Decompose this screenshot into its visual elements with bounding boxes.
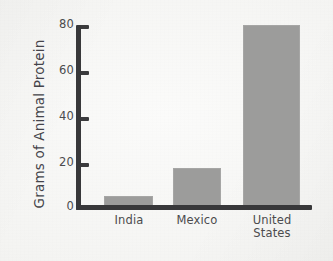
y-tick-label-0: 0: [44, 201, 74, 213]
x-axis-label-mexico: Mexico: [162, 214, 232, 227]
bar-united-states[interactable]: [243, 25, 300, 209]
y-axis-title: Grams of Animal Protein: [31, 24, 47, 224]
plot-area: Grams of Animal Protein 80 60 40 20 0: [0, 0, 333, 261]
x-axis-label-india-line-1: India: [94, 214, 164, 227]
bar-chart-figure: Grams of Animal Protein 80 60 40 20 0: [0, 0, 333, 261]
x-axis-label-united-states-line-2: States: [237, 227, 307, 240]
bar-mexico[interactable]: [173, 168, 221, 209]
y-tick-label-20: 20: [44, 157, 74, 169]
x-axis-line: [76, 205, 312, 210]
y-tick-label-60: 60: [44, 65, 74, 77]
y-tick-label-40: 40: [44, 111, 74, 123]
x-axis-label-mexico-line-1: Mexico: [162, 214, 232, 227]
x-axis-label-united-states: United States: [237, 214, 307, 240]
x-axis-label-india: India: [94, 214, 164, 227]
y-tick-label-80: 80: [44, 19, 74, 31]
y-axis-line: [76, 25, 81, 210]
